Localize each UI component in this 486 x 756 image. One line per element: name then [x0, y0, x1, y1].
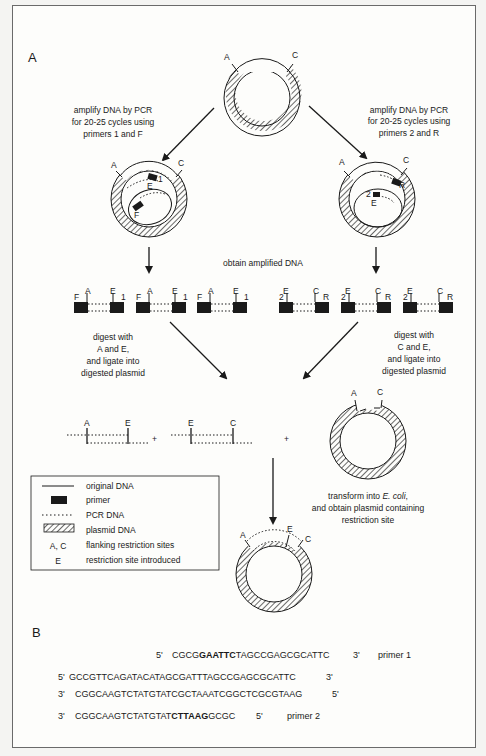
legend-label: original DNA [86, 481, 134, 491]
legend-hatch-icon [44, 524, 74, 532]
plus-sign: + [284, 434, 289, 444]
primer-label-r: R [399, 180, 405, 190]
site-label-c: C [178, 158, 184, 168]
step-left-line2: for 20-25 cycles using [72, 117, 155, 127]
end-label: 5' [256, 711, 263, 721]
digest-left-line4: digested plasmid [81, 368, 145, 378]
site-label-c: C [403, 155, 409, 165]
primer-name: primer 1 [378, 650, 411, 660]
panel-b-label: B [32, 625, 41, 640]
primer2-sequence: 3' CGGCAAGTCTATGTATCTTAAGGCGC 5' primer … [58, 711, 320, 721]
digest-left-line2: A and E, [97, 344, 129, 354]
digest-right-line2: C and E, [397, 342, 430, 352]
site-label-e: E [233, 286, 239, 296]
primer-label-f: F [197, 292, 202, 302]
site-label-a: A [208, 286, 214, 296]
strand-seq: CGGCAAGTCTATGTATCGCTAAATCGGCTCGCGTAAG [75, 689, 302, 699]
site-label-e: E [407, 286, 413, 296]
site-label-c: C [305, 534, 311, 544]
legend-primer-icon [51, 496, 67, 504]
legend-label: PCR DNA [86, 510, 125, 520]
right-pcr-plasmid: A C 2 E R [339, 155, 415, 237]
site-label-e: E [172, 286, 178, 296]
transform-line1: transform into E. coli, [328, 491, 408, 501]
template-top-strand: 5' GCCGTTCAGATACATAGCGATTTAGCCGAGCGCATTC… [58, 672, 333, 682]
end-label: 5' [332, 689, 339, 699]
fragment: 2 E C R [403, 286, 453, 313]
site-label-c: C [230, 418, 236, 428]
left-amplified-fragments: F A E 1 F A E 1 F A E 1 [74, 286, 249, 313]
end-label: 3' [326, 672, 333, 682]
end-label: 5' [156, 650, 163, 660]
digested-plasmid: A C [330, 387, 406, 479]
legend-symbol-e: E [55, 556, 61, 566]
primer-label-r: R [385, 292, 391, 302]
digest-right-line3: and ligate into [388, 354, 441, 364]
digest-right-line4: digested plasmid [382, 366, 446, 376]
end-label: 3' [58, 711, 65, 721]
arrow-to-left-pcr [163, 108, 214, 160]
transform-line2: and obtain plasmid containing [312, 503, 425, 513]
site-label-a: A [85, 286, 91, 296]
fragment: 2 E C R [341, 286, 391, 313]
ligation-fragment-ae: A E [67, 418, 148, 444]
final-plasmid: A E C [236, 524, 312, 612]
arrow-digest-right [304, 322, 358, 378]
site-label-e: E [371, 198, 377, 208]
plus-sign: + [152, 434, 157, 444]
site-label-e: E [283, 286, 289, 296]
site-label-c: C [437, 286, 443, 296]
site-label-e: E [110, 286, 116, 296]
right-amplified-fragments: 2 E C R 2 E C R 2 E C R [279, 286, 453, 313]
digest-left-line1: digest with [93, 332, 133, 342]
primer-label-1: 1 [183, 292, 188, 302]
step-right-line3: primers 2 and R [379, 128, 439, 138]
digest-right-line1: digest with [394, 330, 434, 340]
site-label-c: C [292, 50, 298, 60]
panel-a-label: A [28, 50, 37, 65]
pcr-mutagenesis-diagram: A A C amplify DNA by PCR for 20-25 cycle… [0, 0, 486, 756]
transform-line3: restriction site [342, 515, 395, 525]
site-label-e: E [125, 418, 131, 428]
fragment: F A E 1 [74, 286, 126, 313]
left-pcr-plasmid: A C E 1 F [111, 158, 187, 237]
legend-label: plasmid DNA [86, 525, 136, 535]
site-label-a: A [240, 530, 246, 540]
site-label-c: C [375, 286, 381, 296]
primer-label-f: F [74, 292, 79, 302]
site-label-e: E [147, 181, 153, 191]
top-plasmid: A C [224, 50, 300, 136]
primer-name: primer 2 [287, 711, 320, 721]
step-right-line2: for 20-25 cycles using [368, 116, 451, 126]
primer-label-1: 1 [158, 174, 163, 184]
site-label-e: E [287, 524, 293, 534]
site-label-a: A [84, 418, 90, 428]
strand-seq: GCCGTTCAGATACATAGCGATTTAGCCGAGCGCATTC [69, 672, 296, 682]
step-left-line3: primers 1 and F [83, 129, 143, 139]
primer-label-1: 1 [121, 292, 126, 302]
site-label-e: E [345, 286, 351, 296]
site-label-a: A [147, 286, 153, 296]
site-label-a: A [339, 157, 345, 167]
arrow-digest-left [170, 322, 226, 378]
template-bottom-strand: 3' CGGCAAGTCTATGTATCGCTAAATCGGCTCGCGTAAG… [58, 689, 339, 699]
site-label-a: A [111, 160, 117, 170]
fragment: F A E 1 [197, 286, 249, 313]
primer1-sequence: 5' CGCGGAATTCTAGCCGAGCGCATTC 3' primer 1 [156, 650, 411, 660]
arrow-to-right-pcr [309, 106, 366, 158]
obtain-amplified-label: obtain amplified DNA [223, 258, 303, 268]
end-label: 3' [58, 689, 65, 699]
ligation-fragment-ec: E C [171, 418, 254, 444]
primer1-seq: CGCGGAATTCTAGCCGAGCGCATTC [172, 650, 330, 660]
step-left-line1: amplify DNA by PCR [74, 105, 152, 115]
site-label-a: A [351, 388, 357, 398]
primer-label-f: F [134, 210, 139, 220]
legend-label: primer [86, 495, 110, 505]
site-label-c: C [377, 387, 383, 397]
fragment: 2 E C R [279, 286, 329, 313]
site-label-c: C [313, 286, 319, 296]
digest-left-line3: and ligate into [87, 356, 140, 366]
fragment: F A E 1 [136, 286, 188, 313]
primer-label-1: 1 [244, 292, 249, 302]
primer-label-f: F [136, 292, 141, 302]
